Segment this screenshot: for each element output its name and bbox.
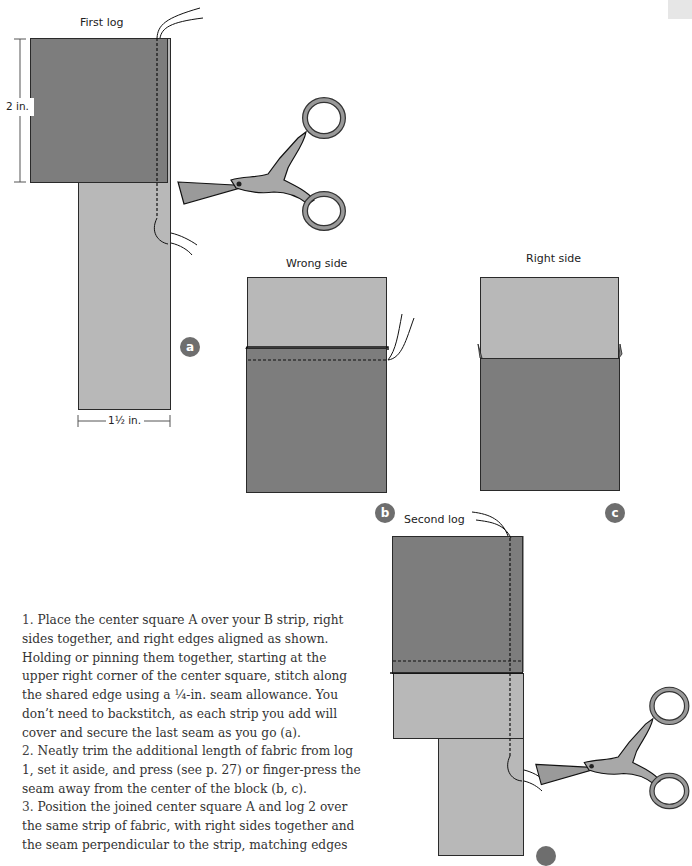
figure-d-badge bbox=[536, 846, 556, 866]
stitch-line-d bbox=[380, 500, 560, 800]
step-text: Position the joined center square A and … bbox=[22, 800, 354, 852]
figure-c-badge: c bbox=[605, 503, 625, 523]
instruction-step-2: 2. Neatly trim the additional length of … bbox=[22, 742, 362, 798]
step-number: 3. bbox=[22, 800, 34, 814]
step-number: 2. bbox=[22, 744, 34, 758]
page-corner-tab bbox=[668, 0, 692, 19]
scissors-icon bbox=[534, 685, 692, 810]
instruction-step-1: 1. Place the center square A over your B… bbox=[22, 611, 362, 743]
figure-c-title: Right side bbox=[526, 252, 581, 265]
figure-a-badge: a bbox=[180, 337, 200, 357]
width-dimension-label: 1½ in. bbox=[108, 414, 141, 426]
square-dark-c bbox=[480, 358, 620, 491]
seam-flaps-c bbox=[470, 340, 630, 370]
step-text: Place the center square A over your B st… bbox=[22, 613, 347, 740]
step-number: 1. bbox=[22, 613, 34, 627]
step-text: Neatly trim the additional length of fab… bbox=[22, 744, 361, 796]
scissors-icon bbox=[176, 96, 351, 231]
stitch-line-b bbox=[230, 250, 430, 370]
instruction-step-3: 3. Position the joined center square A a… bbox=[22, 798, 362, 854]
